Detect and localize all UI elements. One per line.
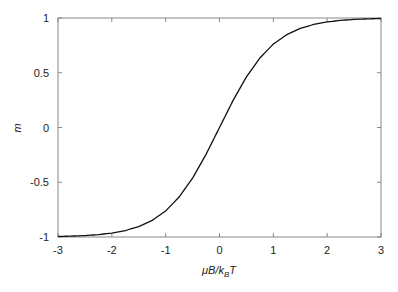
y-axis-ticks: 10.50-0.5-1 <box>30 12 381 243</box>
x-tick-label: 2 <box>324 244 330 256</box>
x-tick-label: -1 <box>161 244 171 256</box>
x-axis-label: μB/kBT <box>201 264 237 279</box>
x-tick-label: 0 <box>216 244 222 256</box>
y-tick-label: 0.5 <box>34 67 49 79</box>
y-axis-label: m <box>11 123 23 132</box>
x-axis-ticks: -3-2-10123 <box>53 18 384 256</box>
x-tick-label: -2 <box>107 244 117 256</box>
data-curve <box>58 19 381 237</box>
x-tick-label: 3 <box>378 244 384 256</box>
x-tick-label: 1 <box>270 244 276 256</box>
y-tick-label: -0.5 <box>30 176 49 188</box>
x-tick-label: -3 <box>53 244 63 256</box>
y-tick-label: -1 <box>39 231 49 243</box>
y-tick-label: 1 <box>43 12 49 24</box>
y-tick-label: 0 <box>43 122 49 134</box>
tanh-magnetization-chart: -3-2-10123 10.50-0.5-1 μB/kBT m <box>0 0 398 292</box>
